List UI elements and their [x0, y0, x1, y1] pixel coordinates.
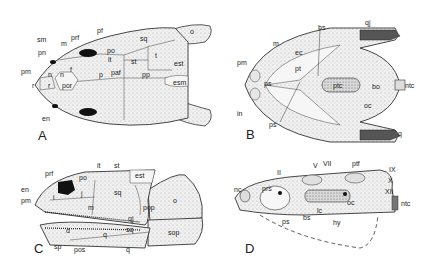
- label-po: po: [79, 174, 87, 181]
- label-en: en: [42, 115, 50, 122]
- label-p: p: [99, 71, 103, 78]
- label-bo: bo: [372, 83, 380, 90]
- label-sp: sp: [54, 243, 61, 250]
- label-sq-lower: sq: [126, 226, 133, 233]
- label-nc: nc: [234, 186, 241, 193]
- label-roman-xii: XII: [385, 188, 394, 195]
- label-qj: qj: [365, 19, 370, 26]
- label-j: j: [81, 190, 83, 197]
- label-o: o: [173, 197, 177, 204]
- label-ps: ps: [264, 80, 271, 87]
- label-esm: esm: [173, 79, 186, 86]
- label-pf: pf: [97, 27, 103, 34]
- label-oc: oc: [364, 102, 371, 109]
- label-it: it: [108, 56, 112, 63]
- label-q-jaw: q: [103, 231, 107, 238]
- label-q: q: [126, 246, 130, 253]
- label-paf: paf: [111, 69, 121, 76]
- label-prs: prs: [262, 185, 272, 192]
- label-por: por: [62, 82, 72, 89]
- label-pm: pm: [21, 68, 31, 75]
- panel-c-lateral-skull: [35, 170, 203, 248]
- label-m: m: [88, 204, 94, 211]
- label-bs: bs: [303, 214, 310, 221]
- label-bs: bs: [318, 24, 325, 31]
- label-st: st: [114, 162, 119, 169]
- label-pos: pos: [74, 246, 85, 253]
- label-pp: pp: [142, 71, 150, 78]
- label-sq: sq: [140, 35, 147, 42]
- label-roman-x: X: [388, 177, 393, 184]
- label-ntc: ntc: [405, 82, 414, 89]
- label-ps-lower: ps: [269, 121, 276, 128]
- label-r: r: [32, 82, 34, 89]
- panel-letter-b: B: [246, 127, 255, 142]
- label-lc: lc: [317, 207, 322, 214]
- label-hy: hy: [333, 219, 340, 226]
- label-ptf: ptf: [352, 160, 360, 167]
- label-ptc: ptc: [333, 82, 342, 89]
- label-l: l: [53, 194, 55, 201]
- label-d: d: [66, 227, 70, 234]
- label-ntc: ntc: [401, 200, 410, 207]
- panel-letter-c: C: [34, 241, 43, 256]
- label-roman-v: V: [313, 162, 318, 169]
- label-sm: sm: [37, 36, 46, 43]
- label-est: est: [135, 172, 144, 179]
- label-pt: pt: [295, 65, 301, 72]
- label-roman-ii: II: [277, 169, 281, 176]
- label-it: it: [97, 162, 101, 169]
- label-sq: sq: [114, 189, 121, 196]
- label-f: f: [70, 66, 72, 73]
- panel-letter-a: A: [38, 128, 47, 143]
- label-m: m: [61, 40, 67, 47]
- label-prf: prf: [71, 34, 79, 41]
- label-prf: prf: [45, 170, 53, 177]
- label-roman-ix: IX: [389, 166, 396, 173]
- label-est: est: [174, 60, 183, 67]
- label-pn: pn: [38, 49, 46, 56]
- label-ps: ps: [282, 218, 289, 225]
- label-r2: r: [48, 82, 50, 89]
- label-roman-vii: VII: [323, 160, 332, 167]
- label-m: m: [273, 40, 279, 47]
- label-q: q: [398, 130, 402, 137]
- label-t: t: [155, 52, 157, 59]
- label-st: st: [131, 58, 136, 65]
- label-sop: sop: [168, 229, 179, 236]
- label-o: o: [190, 28, 194, 35]
- label-ec: ec: [295, 49, 302, 56]
- label-pm: pm: [21, 197, 31, 204]
- label-oc: oc: [347, 199, 354, 206]
- label-qj: qj: [128, 215, 133, 222]
- label-n1: n: [48, 71, 52, 78]
- label-pop: pop: [143, 204, 155, 211]
- label-po: po: [107, 47, 115, 54]
- label-en: en: [21, 186, 29, 193]
- label-in: in: [237, 110, 242, 117]
- panel-letter-d: D: [245, 241, 254, 256]
- label-pm: pm: [237, 59, 247, 66]
- label-n2: n: [60, 71, 64, 78]
